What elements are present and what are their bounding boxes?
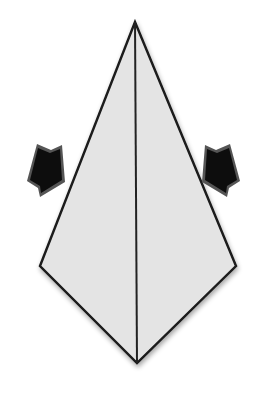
folded-paper	[40, 22, 236, 363]
left-push-arrow-icon	[27, 144, 65, 197]
origami-diagram	[0, 0, 267, 394]
right-push-arrow-icon	[202, 144, 240, 197]
paper-kite-shape	[40, 22, 236, 363]
